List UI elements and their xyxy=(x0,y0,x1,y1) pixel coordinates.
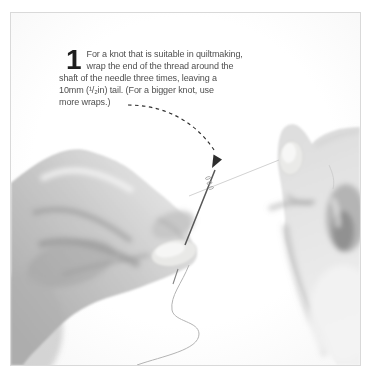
instruction-line: 10mm (¹/₂in) tail. (For a bigger knot, u… xyxy=(59,84,274,96)
instruction-photo-frame: 1 For a knot that is suitable in quiltma… xyxy=(10,12,361,366)
step-instructions: 1 For a knot that is suitable in quiltma… xyxy=(59,48,274,108)
finger-fold-dark xyxy=(332,211,354,251)
step-number: 1 xyxy=(66,48,81,72)
instruction-line: more wraps.) xyxy=(59,96,274,108)
instruction-line: For a knot that is suitable in quiltmaki… xyxy=(59,48,274,60)
book-page: 1 For a knot that is suitable in quiltma… xyxy=(0,0,371,378)
instruction-line: wrap the end of the thread around the xyxy=(59,60,274,72)
instruction-line: shaft of the needle three times, leaving… xyxy=(59,72,274,84)
